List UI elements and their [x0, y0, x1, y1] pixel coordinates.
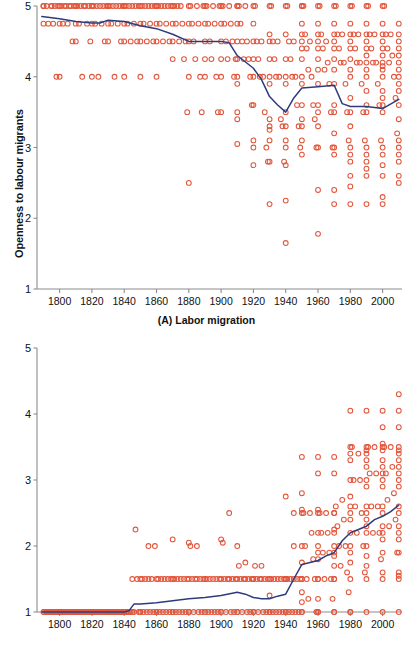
- y-tick-label: 5: [25, 342, 31, 354]
- y-axis-label-a: Openness to labour migrants: [13, 109, 25, 258]
- x-tick-label: 1940: [274, 618, 298, 630]
- x-tick-label: 1860: [145, 295, 169, 307]
- y-tick-label: 5: [25, 0, 31, 12]
- scatter-points: [41, 4, 401, 246]
- plot-area-b: 1234518001820184018601880190019201940196…: [0, 332, 413, 665]
- scatter-points: [41, 392, 401, 615]
- x-tick-label: 1900: [209, 295, 233, 307]
- x-tick-label: 1920: [242, 295, 266, 307]
- x-tick-label: 1900: [209, 618, 233, 630]
- x-tick-label: 1840: [113, 618, 137, 630]
- x-tick-label: 1820: [80, 295, 104, 307]
- x-tick-label: 1820: [80, 618, 104, 630]
- x-tick-label: 1880: [177, 295, 201, 307]
- scatter-plot-a: 1234518001820184018601880190019201940196…: [0, 0, 413, 332]
- x-tick-label: 1960: [306, 295, 330, 307]
- panel-caption-a: (A) Labor migration: [0, 314, 413, 326]
- plot-area-a: 1234518001820184018601880190019201940196…: [0, 0, 413, 332]
- panel-refugees: 1234518001820184018601880190019201940196…: [0, 332, 413, 665]
- x-tick-label: 2000: [371, 295, 395, 307]
- x-tick-label: 1840: [113, 295, 137, 307]
- y-tick-label: 3: [25, 474, 31, 486]
- x-tick-label: 1920: [242, 618, 266, 630]
- y-tick-label: 2: [25, 540, 31, 552]
- y-tick-label: 3: [25, 142, 31, 154]
- y-tick-label: 1: [25, 606, 31, 618]
- y-tick-label: 1: [25, 283, 31, 295]
- x-tick-label: 1980: [339, 618, 363, 630]
- panel-labor-migration: 1234518001820184018601880190019201940196…: [0, 0, 413, 332]
- x-tick-label: 1960: [306, 618, 330, 630]
- y-tick-label: 4: [25, 408, 31, 420]
- scatter-plot-b: 1234518001820184018601880190019201940196…: [0, 332, 413, 665]
- x-tick-label: 2000: [371, 618, 395, 630]
- x-tick-label: 1880: [177, 618, 201, 630]
- y-tick-label: 2: [25, 212, 31, 224]
- x-tick-label: 1980: [339, 295, 363, 307]
- x-tick-label: 1860: [145, 618, 169, 630]
- y-tick-label: 4: [25, 71, 31, 83]
- x-tick-label: 1800: [48, 295, 72, 307]
- x-tick-label: 1940: [274, 295, 298, 307]
- x-tick-label: 1800: [48, 618, 72, 630]
